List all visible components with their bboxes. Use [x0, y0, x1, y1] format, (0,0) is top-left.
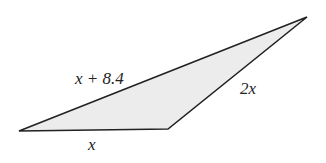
bottom-side-label: x	[88, 136, 96, 153]
long-side-label-text: x + 8.4	[75, 69, 124, 88]
right-side-label-text: 2x	[240, 79, 256, 98]
long-side-label: x + 8.4	[75, 70, 124, 87]
bottom-side-label-text: x	[88, 135, 96, 154]
triangle-diagram: x + 8.4 2x x	[0, 0, 326, 163]
right-side-label: 2x	[240, 80, 256, 97]
triangle-figure	[0, 0, 326, 163]
triangle-shape	[19, 17, 307, 131]
